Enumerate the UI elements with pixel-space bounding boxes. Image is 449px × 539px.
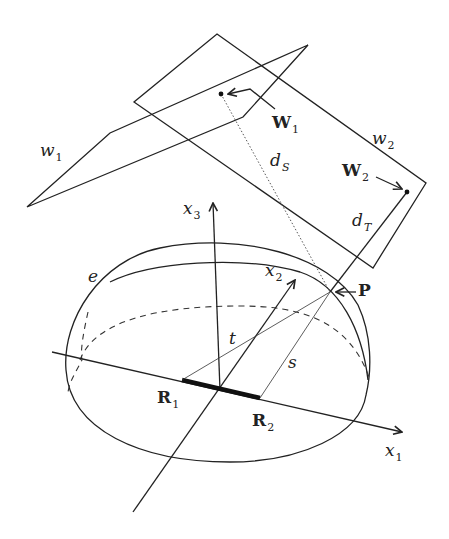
hemisphere-base-front xyxy=(66,370,366,462)
label-P: P xyxy=(358,280,371,300)
label-dS: dS xyxy=(270,150,289,170)
label-dT: dT xyxy=(352,210,371,230)
label-w1: w1 xyxy=(40,140,63,160)
diagram-canvas xyxy=(0,0,449,539)
label-R1: R1 xyxy=(157,387,179,407)
point-W2 xyxy=(405,190,410,195)
label-x3: x3 xyxy=(183,198,201,218)
label-e: e xyxy=(88,266,98,286)
point-W1 xyxy=(219,92,224,97)
label-w2: w2 xyxy=(372,128,395,148)
arrow-W2 xyxy=(376,177,402,189)
segment-r1-r2 xyxy=(182,380,260,398)
arrow-W1 xyxy=(228,89,275,109)
hemisphere-left-dashed xyxy=(68,312,88,392)
label-t: t xyxy=(229,328,236,348)
label-x1: x1 xyxy=(385,440,403,460)
line-s xyxy=(260,292,330,398)
label-R2: R2 xyxy=(252,410,274,430)
hemisphere-meridian xyxy=(110,262,368,380)
label-x2: x2 xyxy=(265,260,283,280)
x3-axis xyxy=(213,203,220,390)
label-W2: W2 xyxy=(342,160,369,180)
line-dT xyxy=(330,192,407,292)
label-W1: W1 xyxy=(272,112,299,132)
line-t xyxy=(182,292,330,380)
label-s: s xyxy=(288,352,297,372)
